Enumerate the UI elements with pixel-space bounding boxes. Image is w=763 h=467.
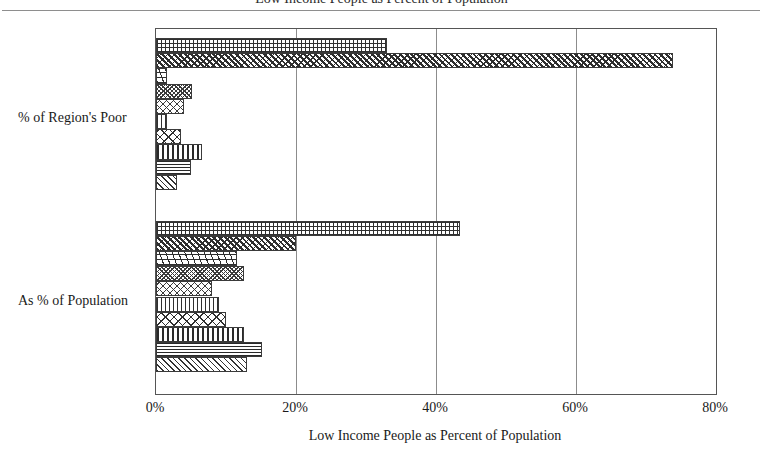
bar-1-9-diaghatch [156,357,247,372]
bar-0-5-vlines [156,114,167,129]
gridline-60% [576,29,577,394]
x-tick-40%: 40% [422,400,448,416]
bar-1-0-grid [156,221,460,236]
bar-0-7-vthick [156,144,202,159]
bar-1-4-dots [156,281,212,296]
bar-0-3-densediag [156,84,192,99]
bar-1-6-crossdiag [156,312,226,327]
bar-0-4-dots [156,99,184,114]
bar-1-8-hlines [156,342,262,357]
bar-1-1-diagdots [156,236,296,251]
x-axis-title: Low Income People as Percent of Populati… [155,428,715,444]
x-tick-20%: 20% [282,400,308,416]
bar-1-7-vthick [156,327,244,342]
bar-0-9-diaghatch [156,175,177,190]
bar-1-5-vlines [156,297,219,312]
plot-area [155,28,717,395]
bar-1-3-densediag [156,266,244,281]
bar-0-6-crossdiag [156,129,181,144]
x-tick-0%: 0% [146,400,165,416]
bar-0-1-diagdots [156,53,673,68]
bar-0-2-wavy [156,68,167,83]
x-tick-80%: 80% [702,400,728,416]
x-tick-60%: 60% [562,400,588,416]
bar-1-2-wavy [156,251,237,266]
bar-0-8-hlines [156,160,191,175]
y-axis-label-1: As % of Population [0,293,148,309]
y-axis-label-0: % of Region's Poor [0,110,148,126]
gridline-40% [436,29,437,394]
gridline-20% [296,29,297,394]
bar-0-0-grid [156,38,387,53]
y-axis-labels: % of Region's PoorAs % of Population [0,0,150,467]
